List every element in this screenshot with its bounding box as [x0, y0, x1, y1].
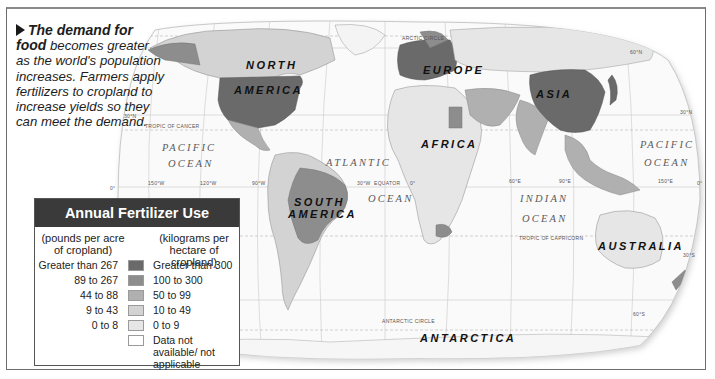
coord-150e: 150°E [658, 178, 673, 184]
label-atlantic-1: ATLANTIC [326, 157, 391, 168]
legend-swatch [128, 260, 144, 271]
legend-kilograms: 0 to 9 [153, 319, 179, 331]
label-south-america-1: SOUTH [294, 196, 345, 208]
label-pacific-west-2: OCEAN [168, 158, 213, 169]
label-north-america-2: AMERICA [234, 84, 303, 96]
legend-swatch [128, 275, 144, 286]
coord-30n-east: 30°N [680, 109, 692, 115]
coord-30n-west: 30°N [124, 113, 136, 119]
legend-pounds: 0 to 8 [92, 319, 118, 331]
label-tropic-cancer: TROPIC OF CANCER [145, 123, 200, 129]
legend-row: 0 to 8 0 to 9 [35, 319, 241, 333]
legend-kilograms: 10 to 49 [153, 304, 191, 316]
legend-kilograms: 100 to 300 [153, 274, 203, 286]
coord-150w: 150°W [148, 180, 165, 186]
legend-row: 89 to 267 100 to 300 [35, 274, 241, 288]
legend-left-header: (pounds per acre of cropland) [39, 232, 127, 256]
coord-0-west: 0° [110, 185, 115, 191]
legend-title: Annual Fertilizer Use [35, 199, 239, 227]
coord-60s: 60°S [633, 311, 645, 317]
legend-pounds: 9 to 43 [86, 304, 118, 316]
legend-pounds: Greater than 267 [39, 259, 118, 271]
label-tropic-capricorn: TROPIC OF CAPRICORN [519, 235, 583, 241]
label-arctic-circle: ARCTIC CIRCLE [402, 35, 444, 41]
legend-pounds: 44 to 88 [80, 289, 118, 301]
legend-swatch [128, 335, 144, 346]
label-europe: EUROPE [423, 64, 484, 76]
legend-row: 44 to 88 50 to 99 [35, 289, 241, 303]
label-indian-2: OCEAN [522, 213, 567, 224]
legend-kilograms: 50 to 99 [153, 289, 191, 301]
coord-60e: 60°E [509, 178, 521, 184]
egypt [449, 107, 462, 128]
label-africa: AFRICA [421, 138, 478, 150]
coord-0: 0° [410, 180, 415, 186]
legend: Annual Fertilizer Use (pounds per acre o… [34, 198, 240, 366]
legend-row: Greater than 267 Greater than 300 [35, 259, 241, 273]
arrow-right-icon [16, 24, 25, 36]
coord-0-east: 0° [697, 180, 702, 186]
label-atlantic-2: OCEAN [368, 193, 413, 204]
label-pacific-west-1: PACIFIC [162, 142, 216, 153]
label-australia: AUSTRALIA [598, 240, 684, 252]
label-antarctic-circle: ANTARCTIC CIRCLE [382, 318, 435, 324]
label-pacific-east-1: PACIFIC [640, 139, 694, 150]
legend-swatch [128, 290, 144, 301]
legend-kilograms: Greater than 300 [153, 259, 232, 271]
label-north-america-1: NORTH [246, 59, 297, 71]
legend-kilograms: Data not available/ not applicable [153, 334, 237, 370]
label-indian-1: INDIAN [520, 193, 568, 204]
legend-row: 9 to 43 10 to 49 [35, 304, 241, 318]
label-equator: EQUATOR [374, 180, 400, 186]
coord-90e: 90°E [559, 178, 571, 184]
legend-row: Data not available/ not applicable [35, 334, 241, 362]
label-pacific-east-2: OCEAN [644, 157, 689, 168]
coord-30w: 30°W [357, 180, 370, 186]
label-antarctica: ANTARCTICA [420, 332, 516, 344]
legend-pounds: 89 to 267 [74, 274, 118, 286]
coord-120w: 120°W [200, 180, 217, 186]
label-south-america-2: AMERICA [288, 208, 357, 220]
label-asia: ASIA [536, 88, 572, 100]
legend-swatch [128, 305, 144, 316]
coord-90w: 90°W [252, 180, 265, 186]
legend-swatch [128, 320, 144, 331]
coord-60n: 60°N [630, 49, 642, 55]
caption: The demand for food becomes greater as t… [16, 23, 166, 129]
coord-30s: 30°S [683, 252, 695, 258]
